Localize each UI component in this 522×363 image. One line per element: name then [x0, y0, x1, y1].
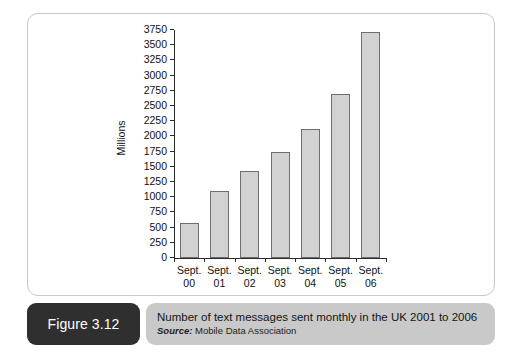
x-axis-label: Sept.02	[235, 264, 265, 289]
x-tick-mark	[235, 258, 236, 262]
x-axis-label-month: Sept.	[328, 264, 353, 276]
x-axis-label-year: 04	[295, 277, 325, 290]
figure-container: Millions 0250500750100012501500175020002…	[0, 0, 522, 363]
y-tick-label: 3750	[144, 23, 167, 35]
x-tick-mark	[295, 258, 296, 262]
y-tick-label: 2500	[144, 99, 167, 111]
x-axis-label: Sept.00	[174, 264, 204, 289]
y-tick-label: 3250	[144, 53, 167, 65]
x-axis-label-month: Sept.	[359, 264, 384, 276]
y-tick-label: 250	[149, 236, 167, 248]
y-tick-label: 0	[161, 251, 167, 263]
bar-chart: Millions 0250500750100012501500175020002…	[28, 14, 496, 297]
x-tick-mark	[356, 258, 357, 262]
figure-number-badge: Figure 3.12	[27, 303, 140, 345]
x-tick-mark	[204, 258, 205, 262]
y-tick-label: 1750	[144, 145, 167, 157]
y-tick-label: 500	[149, 221, 167, 233]
x-tick-mark	[386, 258, 387, 262]
x-axis-label-year: 02	[235, 277, 265, 290]
x-tick-mark	[265, 258, 266, 262]
x-axis-label: Sept.06	[356, 264, 386, 289]
x-axis-label-year: 03	[265, 277, 295, 290]
x-axis-label: Sept.03	[265, 264, 295, 289]
bar	[240, 171, 259, 258]
bar	[210, 191, 229, 258]
x-axis-label-month: Sept.	[298, 264, 323, 276]
y-tick-label: 2250	[144, 114, 167, 126]
y-tick-label: 3500	[144, 38, 167, 50]
x-axis-label-year: 01	[204, 277, 234, 290]
x-axis-label-year: 05	[325, 277, 355, 290]
x-axis-label-month: Sept.	[207, 264, 232, 276]
bar	[271, 152, 290, 258]
caption-source: Source: Mobile Data Association	[157, 325, 495, 337]
x-axis-label: Sept.05	[325, 264, 355, 289]
y-tick-label: 1250	[144, 175, 167, 187]
caption-title: Number of text messages sent monthly in …	[157, 310, 495, 324]
bar	[361, 32, 380, 258]
x-axis-label-month: Sept.	[177, 264, 202, 276]
plot-area	[174, 30, 386, 258]
figure-caption: Figure 3.12 Number of text messages sent…	[27, 303, 495, 345]
x-tick-mark	[325, 258, 326, 262]
y-tick-label: 3000	[144, 69, 167, 81]
chart-panel: Millions 0250500750100012501500175020002…	[27, 13, 495, 296]
x-axis-label-year: 06	[356, 277, 386, 290]
y-axis-title: Millions	[115, 120, 127, 155]
y-tick-label: 750	[149, 205, 167, 217]
caption-source-label: Source:	[157, 325, 192, 336]
y-tick-label: 1500	[144, 160, 167, 172]
bar	[301, 129, 320, 259]
x-axis-label-month: Sept.	[268, 264, 293, 276]
caption-body: Number of text messages sent monthly in …	[146, 303, 495, 345]
y-tick-label: 1000	[144, 190, 167, 202]
y-tick-label: 2750	[144, 84, 167, 96]
bar	[331, 94, 350, 258]
x-axis-label-year: 00	[174, 277, 204, 290]
x-axis-label: Sept.01	[204, 264, 234, 289]
x-axis-label: Sept.04	[295, 264, 325, 289]
bar	[180, 223, 199, 258]
x-tick-mark	[174, 258, 175, 262]
y-tick-label: 2000	[144, 129, 167, 141]
x-axis-label-month: Sept.	[237, 264, 262, 276]
caption-source-value: Mobile Data Association	[195, 325, 296, 336]
